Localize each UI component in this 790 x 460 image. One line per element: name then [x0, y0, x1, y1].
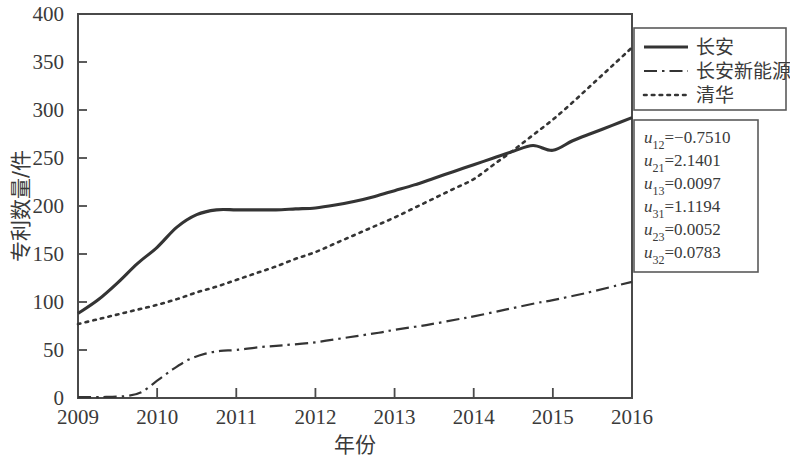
x-tick-label: 2010	[136, 405, 178, 429]
legend-label-1: 长安	[696, 36, 734, 58]
x-tick-label: 2013	[374, 405, 416, 429]
legend-label-3: 清华	[696, 84, 734, 106]
x-tick-label: 2015	[532, 405, 574, 429]
legend: 长安长安新能源清华	[634, 28, 790, 110]
y-tick-label: 200	[33, 194, 65, 218]
x-axis: 20092010201120122013201420152016	[57, 388, 653, 429]
plot-frame	[78, 14, 632, 398]
x-tick-label: 2009	[57, 405, 99, 429]
patent-trend-line-chart: 050100150200250300350400 200920102011201…	[0, 0, 790, 460]
x-tick-label: 2012	[294, 405, 336, 429]
series-line-1	[78, 118, 632, 314]
data-series-group	[78, 48, 632, 398]
y-tick-label: 50	[43, 338, 64, 362]
y-tick-label: 400	[33, 2, 65, 26]
legend-label-2: 长安新能源	[696, 60, 790, 82]
y-tick-label: 250	[33, 146, 65, 170]
y-tick-label: 150	[33, 242, 65, 266]
y-axis-title: 专利数量/件	[9, 150, 33, 262]
x-tick-label: 2011	[216, 405, 257, 429]
y-tick-label: 350	[33, 50, 65, 74]
y-tick-label: 100	[33, 290, 65, 314]
series-line-3	[78, 48, 632, 324]
y-tick-label: 300	[33, 98, 65, 122]
series-line-2	[78, 282, 632, 397]
x-tick-label: 2014	[453, 405, 496, 429]
x-axis-title: 年份	[334, 433, 376, 457]
coefficients-annotation: u12=−0.7510u21=2.1401u13=0.0097u31=1.119…	[634, 120, 758, 272]
chart-figure: 050100150200250300350400 200920102011201…	[0, 0, 790, 460]
x-tick-label: 2016	[611, 405, 653, 429]
